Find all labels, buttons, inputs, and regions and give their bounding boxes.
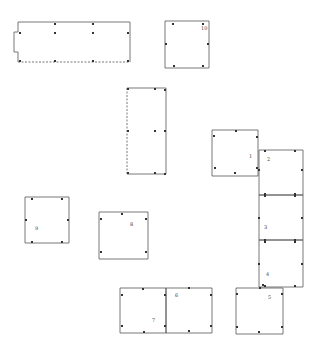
box-8 — [99, 212, 148, 259]
marker-dot — [213, 135, 215, 137]
marker-dot — [67, 219, 69, 221]
marker-dot — [264, 285, 266, 287]
marker-dot — [294, 285, 296, 287]
marker-dot — [294, 193, 296, 195]
marker-dot — [264, 193, 266, 195]
marker-dot — [256, 136, 258, 138]
floor-plan-diagram: 10123459876 — [0, 0, 318, 359]
marker-dot — [188, 287, 190, 289]
marker-dot — [294, 241, 296, 243]
marker-dot — [164, 173, 166, 175]
marker-dot — [145, 218, 147, 220]
marker-dot — [214, 167, 216, 169]
marker-dot — [264, 239, 266, 241]
marker-dot — [188, 330, 190, 332]
marker-dot — [31, 241, 33, 243]
marker-dot — [54, 60, 56, 62]
marker-dot — [258, 217, 260, 219]
box-label: 3 — [264, 224, 267, 230]
marker-dot — [154, 88, 156, 90]
marker-dot — [234, 172, 236, 174]
box-9 — [25, 197, 69, 243]
marker-dot — [258, 331, 260, 333]
box-4 — [259, 240, 303, 287]
marker-dot — [92, 32, 94, 34]
marker-dot — [264, 150, 266, 152]
marker-dot — [61, 241, 63, 243]
marker-dot — [127, 32, 129, 34]
marker-dot — [121, 325, 123, 327]
box-7 — [120, 288, 166, 333]
box-B — [127, 88, 166, 174]
box-3 — [259, 195, 303, 240]
marker-dot — [294, 239, 296, 241]
marker-dot — [164, 89, 166, 91]
marker-dot — [19, 60, 21, 62]
marker-dot — [127, 172, 129, 174]
marker-dot — [165, 43, 167, 45]
marker-dot — [172, 23, 174, 25]
marker-dot — [207, 43, 209, 45]
marker-dot — [301, 217, 303, 219]
marker-dot — [256, 167, 258, 169]
marker-dot — [202, 65, 204, 67]
box-label: 10 — [201, 25, 207, 31]
marker-dot — [143, 331, 145, 333]
marker-dot — [164, 130, 166, 132]
marker-dot — [100, 251, 102, 253]
box-2 — [259, 150, 303, 195]
marker-dot — [210, 294, 212, 296]
marker-dot — [236, 326, 238, 328]
marker-dot — [127, 88, 129, 90]
marker-dot — [258, 169, 260, 171]
marker-dot — [61, 198, 63, 200]
marker-dot — [259, 287, 261, 289]
marker-dot — [54, 32, 56, 34]
marker-dot — [235, 130, 237, 132]
marker-dot — [264, 241, 266, 243]
marker-dot — [25, 219, 27, 221]
marker-dot — [127, 130, 129, 132]
box-6 — [166, 288, 212, 333]
marker-dot — [281, 326, 283, 328]
marker-dot — [145, 251, 147, 253]
marker-dot — [92, 23, 94, 25]
marker-dot — [264, 195, 266, 197]
box-label: 1 — [249, 153, 252, 159]
marker-dot — [121, 213, 123, 215]
box-label: 4 — [266, 271, 269, 277]
marker-dot — [294, 195, 296, 197]
marker-dot — [236, 293, 238, 295]
box-label: 8 — [130, 221, 133, 227]
box-label: 7 — [152, 317, 155, 323]
marker-dot — [301, 169, 303, 171]
marker-dot — [127, 60, 129, 62]
marker-dot — [142, 288, 144, 290]
marker-dot — [154, 130, 156, 132]
marker-dot — [92, 60, 94, 62]
marker-dot — [262, 284, 264, 286]
box-label: 9 — [35, 225, 38, 231]
marker-dot — [258, 263, 260, 265]
box-label: 5 — [268, 294, 271, 300]
marker-dot — [100, 218, 102, 220]
marker-dot — [210, 325, 212, 327]
box-5 — [236, 288, 283, 334]
box-A — [14, 22, 130, 62]
marker-dot — [19, 32, 21, 34]
marker-dot — [294, 150, 296, 152]
marker-dot — [173, 65, 175, 67]
marker-dot — [121, 294, 123, 296]
marker-dot — [31, 198, 33, 200]
box-label: 2 — [267, 156, 270, 162]
marker-dot — [54, 23, 56, 25]
dots-layer — [19, 23, 303, 333]
marker-dot — [281, 293, 283, 295]
marker-dot — [301, 263, 303, 265]
marker-dot — [154, 172, 156, 174]
marker-dot — [164, 325, 166, 327]
marker-dot — [164, 294, 166, 296]
box-label: 6 — [175, 292, 178, 298]
